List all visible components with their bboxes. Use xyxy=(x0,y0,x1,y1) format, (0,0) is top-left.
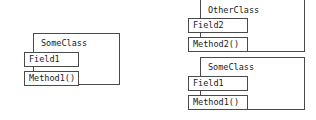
class-title-otherclass: OtherClass xyxy=(208,5,259,15)
uml-class-diagram: SomeClass Field1 Method1() OtherClass Fi… xyxy=(0,0,316,120)
class-title-someclass-left: SomeClass xyxy=(41,38,87,48)
method-box-someclass-left-0[interactable]: Method1() xyxy=(24,71,79,86)
field-box-someclass-left-0[interactable]: Field1 xyxy=(24,52,79,67)
field-box-otherclass-0[interactable]: Field2 xyxy=(188,18,248,33)
method-box-otherclass-0[interactable]: Method2() xyxy=(188,37,248,52)
method-box-someclass-right-0[interactable]: Method1() xyxy=(188,95,248,110)
class-title-someclass-right: SomeClass xyxy=(208,62,254,72)
field-box-someclass-right-0[interactable]: Field1 xyxy=(188,76,248,91)
